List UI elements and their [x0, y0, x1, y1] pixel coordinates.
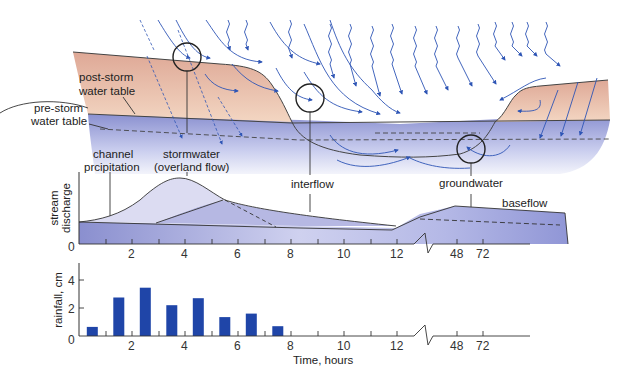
discharge-y-label-2: discharge [60, 183, 72, 233]
discharge-x-tick-48: 48 [450, 247, 464, 261]
rainfall-bar [219, 317, 230, 336]
discharge-y-zero: 0 [68, 240, 75, 254]
soil-right [495, 80, 610, 122]
stormwater-label: stormwater [163, 148, 220, 160]
rainfall-chart: 0 2 4 2 4 6 8 10 12 48 72 rainfall, cm T… [52, 263, 530, 366]
rainfall-x-tick-12: 12 [390, 339, 404, 353]
rainfall-x-tick-72: 72 [476, 339, 490, 353]
discharge-x-tick-4: 4 [181, 247, 188, 261]
hydrograph-figure: @ [0, 0, 625, 386]
interflow-callout-circle [296, 84, 324, 112]
rainfall-x-tick-48: 48 [450, 339, 464, 353]
post-storm-label: post-storm [79, 71, 133, 83]
rainfall-y-tick-2: 2 [68, 302, 75, 316]
rainfall-y-ticks [79, 280, 84, 308]
rainfall-y-label: rainfall, cm [52, 272, 64, 328]
discharge-x-tick-8: 8 [287, 247, 294, 261]
discharge-x-tick-6: 6 [234, 247, 241, 261]
channel-precip-label: channel [93, 148, 133, 160]
discharge-y-label: stream [48, 190, 60, 225]
discharge-x-tick-12: 12 [390, 247, 404, 261]
pre-storm-label-2: water table [30, 115, 87, 127]
pre-storm-label: pre-storm [34, 102, 83, 114]
rainfall-bar [193, 298, 204, 336]
discharge-x-tick-2: 2 [128, 247, 135, 261]
rainfall-arrows [227, 20, 561, 96]
stormwater-label-2: (overland flow) [154, 161, 230, 173]
rainfall-bar [140, 288, 151, 336]
rainfall-bar [87, 327, 98, 336]
interflow-label: interflow [291, 178, 335, 190]
rainfall-x-tick-2: 2 [128, 339, 135, 353]
discharge-x-tick-72: 72 [476, 247, 490, 261]
rainfall-x-tick-10: 10 [337, 339, 351, 353]
rainfall-y-tick-0: 0 [68, 333, 75, 347]
rainfall-y-tick-4: 4 [68, 274, 75, 288]
baseflow-label: baseflow [502, 197, 548, 209]
rainfall-bar [272, 326, 283, 336]
rainfall-x-tick-6: 6 [234, 339, 241, 353]
rainfall-x-tick-8: 8 [287, 339, 294, 353]
cross-section: @ [0, 20, 610, 218]
rainfall-bar [166, 305, 177, 336]
rainfall-bar [246, 314, 257, 336]
channel-precip-label-2: prcipitation [84, 161, 140, 173]
rainfall-bars [87, 288, 283, 336]
rainfall-x-tick-4: 4 [181, 339, 188, 353]
groundwater-label: groundwater [439, 177, 503, 189]
discharge-x-tick-10: 10 [337, 247, 351, 261]
rainfall-bar [113, 298, 124, 337]
rainfall-x-label: Time, hours [293, 354, 354, 366]
post-storm-label-2: water table [78, 85, 135, 97]
